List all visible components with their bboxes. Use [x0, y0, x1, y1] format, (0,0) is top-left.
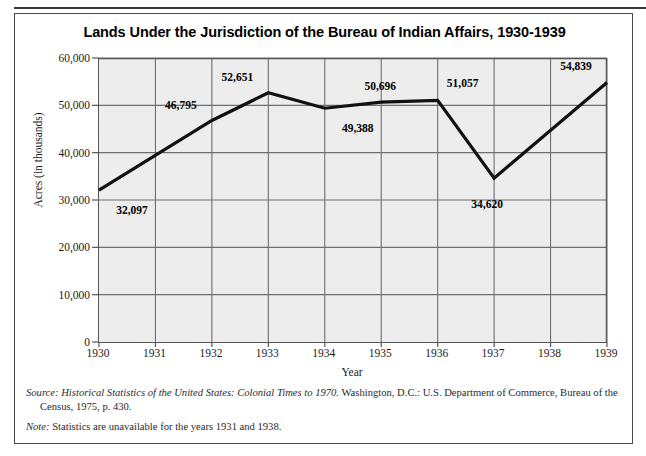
- y-tick-label-50000: 50,000: [58, 99, 90, 111]
- data-point-label-1937: 34,620: [471, 198, 503, 210]
- source-note: Source: Historical Statistics of the Uni…: [26, 386, 626, 413]
- y-tick-label-10000: 10,000: [58, 289, 90, 301]
- x-tick-label-1933: 1933: [256, 347, 279, 359]
- y-axis-tick-labels: 010,00020,00030,00040,00050,00060,000: [33, 58, 90, 342]
- data-point-label-1930: 32,097: [116, 204, 148, 216]
- x-axis-tick-labels: 1930193119321933193419351936193719381939: [98, 347, 606, 365]
- x-tick-label-1937: 1937: [482, 347, 505, 359]
- data-point-label-1936: 51,057: [447, 77, 479, 89]
- note-note: Note: Statistics are unavailable for the…: [26, 420, 626, 434]
- data-point-label-1935: 50,696: [364, 80, 396, 92]
- y-tick-label-40000: 40,000: [58, 147, 90, 159]
- footnotes: Source: Historical Statistics of the Uni…: [26, 386, 626, 434]
- note-label: Note:: [26, 421, 50, 432]
- source-publication-title: Historical Statistics of the United Stat…: [61, 387, 339, 398]
- x-tick-label-1939: 1939: [595, 347, 618, 359]
- x-tick-label-1930: 1930: [87, 347, 110, 359]
- data-point-label-1932: 46,795: [165, 99, 197, 111]
- source-label: Source:: [26, 387, 59, 398]
- x-tick-label-1934: 1934: [312, 347, 335, 359]
- data-point-label-1934: 49,388: [342, 122, 374, 134]
- top-divider-rule: [14, 7, 646, 9]
- x-tick-label-1931: 1931: [143, 347, 166, 359]
- plot-wrapper: Acres (in thousands) 010,00020,00030,000…: [15, 14, 634, 445]
- y-tick-label-30000: 30,000: [58, 194, 90, 206]
- figure-frame: Lands Under the Jurisdiction of the Bure…: [14, 13, 633, 444]
- x-tick-label-1932: 1932: [199, 347, 222, 359]
- data-point-label-1939: 54,839: [560, 60, 592, 72]
- x-tick-label-1938: 1938: [538, 347, 561, 359]
- note-text: Statistics are unavailable for the years…: [50, 421, 282, 432]
- x-tick-label-1935: 1935: [369, 347, 392, 359]
- x-tick-label-1936: 1936: [425, 347, 448, 359]
- y-tick-label-20000: 20,000: [58, 241, 90, 253]
- y-tick-label-60000: 60,000: [58, 52, 90, 64]
- data-point-label-1933: 52,651: [222, 71, 254, 83]
- x-axis-title: Year: [98, 366, 606, 378]
